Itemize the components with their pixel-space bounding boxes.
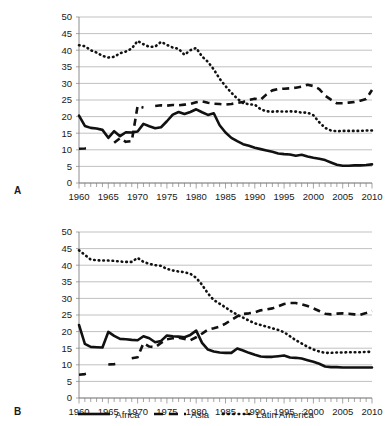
legend-item-asia: Asia bbox=[153, 409, 209, 420]
ytick-label-15: 15 bbox=[61, 343, 72, 354]
legend-swatch-solid-icon bbox=[77, 409, 111, 419]
ytick-label-5: 5 bbox=[67, 161, 72, 172]
xtick-label-1975: 1975 bbox=[156, 191, 177, 202]
figure-root: 0510152025303540455019601965197019751980… bbox=[0, 0, 391, 426]
xtick-label-1985: 1985 bbox=[215, 191, 236, 202]
ytick-label-0: 0 bbox=[67, 392, 72, 403]
chart-a-svg: 0510152025303540455019601965197019751980… bbox=[0, 0, 391, 210]
legend-item-africa: Africa bbox=[77, 409, 139, 420]
ytick-label-0: 0 bbox=[67, 177, 72, 188]
ytick-label-25: 25 bbox=[61, 309, 72, 320]
ytick-label-45: 45 bbox=[61, 243, 72, 254]
legend-swatch-dashed-icon bbox=[153, 409, 187, 419]
ytick-label-40: 40 bbox=[61, 45, 72, 56]
chart-b-svg: 0510152025303540455019601965197019751980… bbox=[0, 210, 391, 426]
ytick-label-40: 40 bbox=[61, 260, 72, 271]
ytick-label-30: 30 bbox=[61, 293, 72, 304]
chart-legend: Africa Asia Latin America bbox=[0, 404, 391, 424]
panel-a-label: A bbox=[14, 185, 21, 196]
ytick-label-30: 30 bbox=[61, 78, 72, 89]
ytick-label-5: 5 bbox=[67, 376, 72, 387]
series-line-africa bbox=[79, 109, 372, 165]
ytick-label-15: 15 bbox=[61, 128, 72, 139]
xtick-label-2010: 2010 bbox=[361, 191, 382, 202]
ytick-label-10: 10 bbox=[61, 359, 72, 370]
chart-panel-a: 0510152025303540455019601965197019751980… bbox=[0, 0, 391, 210]
xtick-label-1960: 1960 bbox=[68, 191, 89, 202]
ytick-label-50: 50 bbox=[61, 11, 72, 22]
xtick-label-1995: 1995 bbox=[274, 191, 295, 202]
ytick-label-35: 35 bbox=[61, 61, 72, 72]
chart-panel-b: 0510152025303540455019601965197019751980… bbox=[0, 210, 391, 426]
legend-label-africa: Africa bbox=[115, 409, 139, 420]
ytick-label-50: 50 bbox=[61, 226, 72, 237]
ytick-label-45: 45 bbox=[61, 28, 72, 39]
xtick-label-1965: 1965 bbox=[98, 191, 119, 202]
xtick-label-2005: 2005 bbox=[332, 191, 353, 202]
ytick-label-10: 10 bbox=[61, 144, 72, 155]
ytick-label-25: 25 bbox=[61, 94, 72, 105]
series-line-latin-america bbox=[79, 250, 372, 353]
xtick-label-2000: 2000 bbox=[303, 191, 324, 202]
legend-label-asia: Asia bbox=[191, 409, 209, 420]
series-line-latin-america bbox=[79, 41, 372, 131]
legend-swatch-dotted-icon bbox=[222, 409, 252, 419]
ytick-label-35: 35 bbox=[61, 276, 72, 287]
xtick-label-1970: 1970 bbox=[127, 191, 148, 202]
legend-label-latin-america: Latin America bbox=[256, 409, 314, 420]
ytick-label-20: 20 bbox=[61, 326, 72, 337]
xtick-label-1980: 1980 bbox=[186, 191, 207, 202]
legend-item-latin-america: Latin America bbox=[222, 409, 314, 420]
xtick-label-1990: 1990 bbox=[244, 191, 265, 202]
ytick-label-20: 20 bbox=[61, 111, 72, 122]
